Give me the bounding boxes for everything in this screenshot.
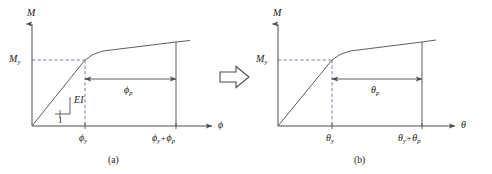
panel-b-x-axis-label: θ — [461, 120, 466, 130]
panel-a-caption: (a) — [108, 155, 119, 165]
panel-b-caption: (b) — [354, 155, 365, 165]
panel-b-yield-rotation-label: θy — [326, 133, 334, 143]
figure-root: M ϕ My ϕy ϕy+ϕp ϕp EI 1 (a) M θ My θy θy… — [0, 0, 492, 174]
panel-a — [32, 24, 212, 129]
panel-a-y-axis-label: M — [27, 8, 35, 18]
panel-b-yield-moment-label: My — [256, 54, 267, 64]
panel-a-x-axis-label: ϕ — [218, 120, 223, 130]
panel-b-y-axis-label: M — [273, 8, 281, 18]
panel-a-yield-curvature-label: ϕy — [79, 133, 87, 143]
diagram-canvas — [0, 0, 492, 174]
panel-b — [278, 24, 455, 129]
panel-b-hardening-branch — [332, 40, 436, 60]
panel-a-plastic-span-label: ϕp — [124, 85, 133, 95]
panel-a-slope-run-label: 1 — [58, 116, 63, 125]
panel-b-plastic-span-label: θp — [371, 85, 379, 95]
implies-arrow — [220, 67, 249, 88]
panel-a-yield-moment-label: My — [9, 54, 20, 64]
panel-a-hardening-branch — [85, 41, 190, 61]
panel-a-stiffness-label: EI — [74, 95, 84, 105]
panel-b-elastic-branch — [278, 60, 332, 126]
panel-b-ultimate-rotation-label: θy+θp — [398, 133, 421, 143]
panel-a-ultimate-curvature-label: ϕy+ϕp — [152, 133, 175, 143]
